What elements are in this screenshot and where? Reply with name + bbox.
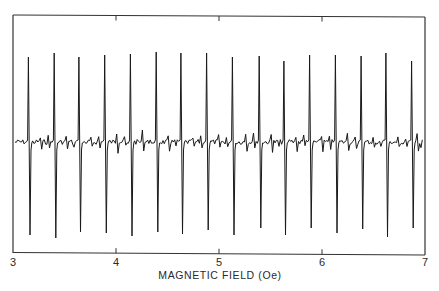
x-tick-label: 6 [319,256,325,268]
x-tick-label: 3 [10,256,16,268]
x-axis-title: MAGNETIC FIELD (Oe) [158,269,281,281]
signal-trace [15,52,422,238]
x-tick-labels: 34567 [10,256,428,268]
x-tick-label: 4 [113,256,119,268]
chart: 34567 MAGNETIC FIELD (Oe) [0,0,439,291]
x-tick-label: 7 [422,256,428,268]
x-tick-label: 5 [216,256,222,268]
